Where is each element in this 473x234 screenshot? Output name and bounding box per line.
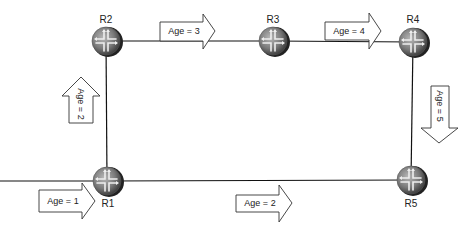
router-label-r2: R2 bbox=[100, 14, 113, 25]
link-r1-r2 bbox=[106, 41, 107, 181]
arrow-label-age-5-down: Age = 5 bbox=[435, 90, 445, 121]
router-r1-icon bbox=[93, 167, 124, 197]
link-r4-r5 bbox=[411, 42, 413, 180]
arrow-label-age-1: Age = 1 bbox=[47, 196, 78, 206]
router-label-r1: R1 bbox=[102, 198, 115, 209]
link-r1-r5 bbox=[107, 180, 411, 181]
arrow-label-age-4: Age = 4 bbox=[333, 26, 364, 36]
routers bbox=[92, 27, 430, 197]
arrow-label-age-3: Age = 3 bbox=[168, 26, 199, 36]
arrow-label-age-2-up: Age = 2 bbox=[76, 88, 86, 119]
router-label-r3: R3 bbox=[267, 14, 280, 25]
router-label-r4: R4 bbox=[407, 14, 420, 25]
router-r5-icon bbox=[397, 166, 428, 196]
router-r4-icon bbox=[399, 28, 430, 58]
router-label-r5: R5 bbox=[405, 198, 418, 209]
router-r2-icon bbox=[92, 27, 123, 57]
arrow-label-age-2-bottom: Age = 2 bbox=[244, 198, 275, 208]
links bbox=[0, 41, 413, 181]
router-r3-icon bbox=[259, 27, 290, 57]
link-r3-r4 bbox=[273, 41, 413, 42]
